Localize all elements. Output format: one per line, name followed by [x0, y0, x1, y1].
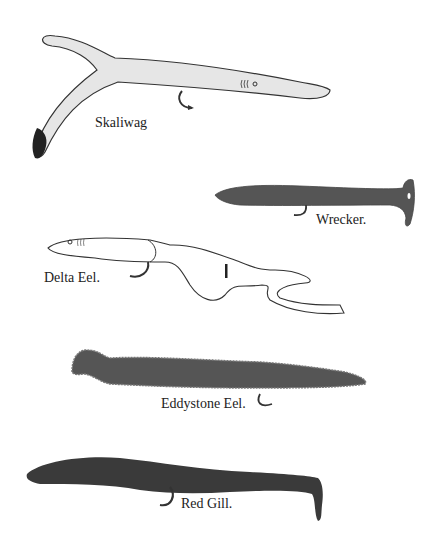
skaliwag-lure — [33, 35, 330, 158]
band-marker — [225, 264, 228, 278]
label-wrecker: Wrecker. — [316, 212, 366, 228]
wrecker-lure — [215, 179, 414, 226]
hook-icon — [259, 394, 273, 405]
hook-icon — [179, 91, 192, 108]
lure-illustration-plate: Skaliwag Wrecker. Delta Eel. Eddystone E… — [0, 0, 437, 557]
hook-icon — [294, 205, 306, 215]
label-red-gill: Red Gill. — [181, 496, 232, 512]
hook-icon — [130, 262, 148, 277]
red-gill-lure — [27, 457, 323, 521]
label-eddystone-eel: Eddystone Eel. — [161, 396, 246, 412]
label-skaliwag: Skaliwag — [95, 115, 147, 131]
label-delta-eel: Delta Eel. — [44, 270, 100, 286]
